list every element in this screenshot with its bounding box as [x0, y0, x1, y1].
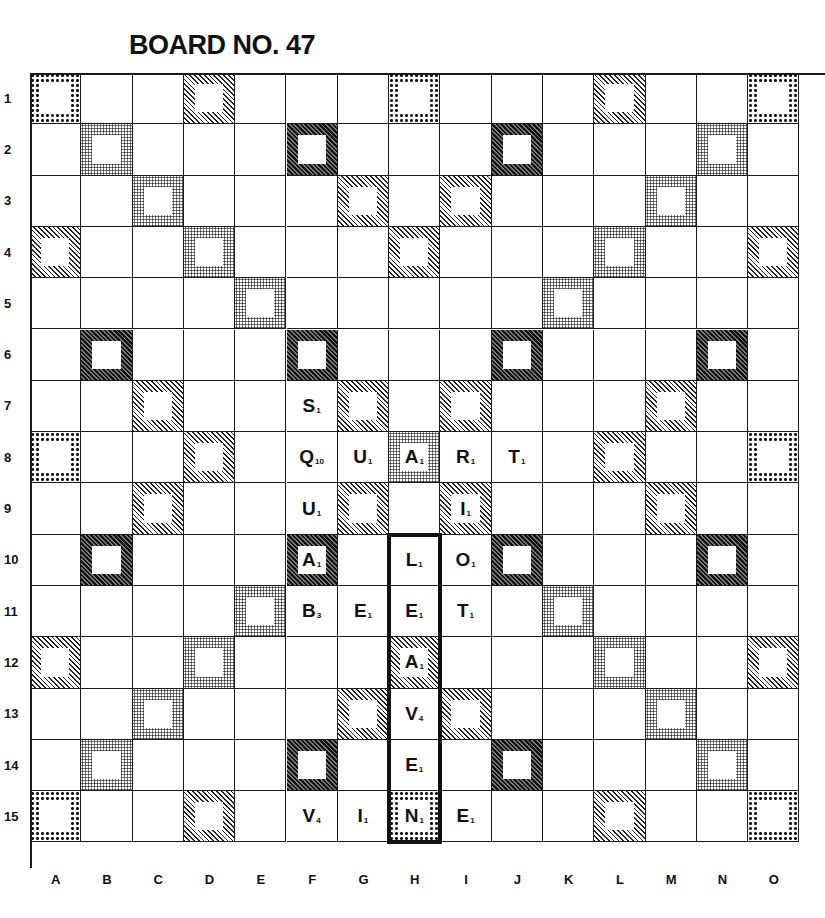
- board-cell-M2[interactable]: [646, 124, 697, 175]
- board-cell-H14[interactable]: E1: [389, 740, 440, 791]
- board-cell-D9[interactable]: [184, 483, 235, 534]
- board-cell-F1[interactable]: [287, 73, 338, 124]
- board-cell-K4[interactable]: [543, 227, 594, 278]
- board-cell-L11[interactable]: [594, 586, 645, 637]
- board-cell-B15[interactable]: [81, 791, 132, 842]
- board-cell-M13[interactable]: [646, 689, 697, 740]
- board-cell-C13[interactable]: [133, 689, 184, 740]
- board-cell-K6[interactable]: [543, 330, 594, 381]
- board-cell-E11[interactable]: [235, 586, 286, 637]
- board-cell-F8[interactable]: Q10: [287, 432, 338, 483]
- board-cell-N11[interactable]: [697, 586, 748, 637]
- board-cell-J12[interactable]: [492, 637, 543, 688]
- board-cell-N12[interactable]: [697, 637, 748, 688]
- board-cell-O3[interactable]: [748, 176, 799, 227]
- board-cell-D12[interactable]: [184, 637, 235, 688]
- board-cell-N9[interactable]: [697, 483, 748, 534]
- board-cell-J3[interactable]: [492, 176, 543, 227]
- board-cell-F7[interactable]: S1: [287, 381, 338, 432]
- board-cell-D6[interactable]: [184, 330, 235, 381]
- board-cell-J1[interactable]: [492, 73, 543, 124]
- board-cell-L5[interactable]: [594, 278, 645, 329]
- board-cell-H11[interactable]: E1: [389, 586, 440, 637]
- board-cell-K8[interactable]: [543, 432, 594, 483]
- board-cell-O15[interactable]: [748, 791, 799, 842]
- board-cell-L7[interactable]: [594, 381, 645, 432]
- board-cell-M1[interactable]: [646, 73, 697, 124]
- board-cell-A7[interactable]: [30, 381, 81, 432]
- board-cell-H5[interactable]: [389, 278, 440, 329]
- board-cell-I6[interactable]: [440, 330, 491, 381]
- board-cell-G1[interactable]: [338, 73, 389, 124]
- board-cell-J13[interactable]: [492, 689, 543, 740]
- board-cell-C5[interactable]: [133, 278, 184, 329]
- board-cell-B5[interactable]: [81, 278, 132, 329]
- board-cell-J10[interactable]: [492, 535, 543, 586]
- board-cell-B12[interactable]: [81, 637, 132, 688]
- board-cell-E15[interactable]: [235, 791, 286, 842]
- board-cell-G12[interactable]: [338, 637, 389, 688]
- board-cell-K7[interactable]: [543, 381, 594, 432]
- board-cell-I1[interactable]: [440, 73, 491, 124]
- board-cell-J7[interactable]: [492, 381, 543, 432]
- board-cell-E2[interactable]: [235, 124, 286, 175]
- board-cell-C12[interactable]: [133, 637, 184, 688]
- board-cell-I13[interactable]: [440, 689, 491, 740]
- board-cell-C2[interactable]: [133, 124, 184, 175]
- board-cell-F4[interactable]: [287, 227, 338, 278]
- board-cell-E14[interactable]: [235, 740, 286, 791]
- board-cell-I9[interactable]: I1: [440, 483, 491, 534]
- board-cell-J9[interactable]: [492, 483, 543, 534]
- board-cell-O8[interactable]: [748, 432, 799, 483]
- board-cell-K11[interactable]: [543, 586, 594, 637]
- board-cell-B1[interactable]: [81, 73, 132, 124]
- board-cell-C9[interactable]: [133, 483, 184, 534]
- board-cell-B6[interactable]: [81, 330, 132, 381]
- board-cell-G13[interactable]: [338, 689, 389, 740]
- board-cell-E10[interactable]: [235, 535, 286, 586]
- board-cell-L6[interactable]: [594, 330, 645, 381]
- board-cell-H7[interactable]: [389, 381, 440, 432]
- board-cell-N4[interactable]: [697, 227, 748, 278]
- board-cell-C4[interactable]: [133, 227, 184, 278]
- board-cell-L2[interactable]: [594, 124, 645, 175]
- board-cell-B9[interactable]: [81, 483, 132, 534]
- board-cell-K5[interactable]: [543, 278, 594, 329]
- board-cell-L8[interactable]: [594, 432, 645, 483]
- board-cell-E4[interactable]: [235, 227, 286, 278]
- board-cell-B7[interactable]: [81, 381, 132, 432]
- board-cell-C14[interactable]: [133, 740, 184, 791]
- board-cell-D5[interactable]: [184, 278, 235, 329]
- board-cell-A2[interactable]: [30, 124, 81, 175]
- board-cell-M3[interactable]: [646, 176, 697, 227]
- board-cell-B4[interactable]: [81, 227, 132, 278]
- board-cell-H12[interactable]: A1: [389, 637, 440, 688]
- board-cell-K2[interactable]: [543, 124, 594, 175]
- board-cell-I2[interactable]: [440, 124, 491, 175]
- board-cell-C11[interactable]: [133, 586, 184, 637]
- board-cell-B8[interactable]: [81, 432, 132, 483]
- board-cell-K10[interactable]: [543, 535, 594, 586]
- board-cell-M12[interactable]: [646, 637, 697, 688]
- board-cell-L15[interactable]: [594, 791, 645, 842]
- board-cell-B14[interactable]: [81, 740, 132, 791]
- board-cell-L4[interactable]: [594, 227, 645, 278]
- board-cell-D13[interactable]: [184, 689, 235, 740]
- board-cell-L14[interactable]: [594, 740, 645, 791]
- board-cell-N15[interactable]: [697, 791, 748, 842]
- board-cell-H8[interactable]: A1: [389, 432, 440, 483]
- board-cell-E9[interactable]: [235, 483, 286, 534]
- board-cell-H2[interactable]: [389, 124, 440, 175]
- board-cell-G11[interactable]: E1: [338, 586, 389, 637]
- board-cell-G7[interactable]: [338, 381, 389, 432]
- board-cell-A3[interactable]: [30, 176, 81, 227]
- board-cell-F2[interactable]: [287, 124, 338, 175]
- board-cell-O10[interactable]: [748, 535, 799, 586]
- board-cell-F6[interactable]: [287, 330, 338, 381]
- board-cell-O6[interactable]: [748, 330, 799, 381]
- board-cell-O9[interactable]: [748, 483, 799, 534]
- board-cell-M5[interactable]: [646, 278, 697, 329]
- board-cell-I15[interactable]: E1: [440, 791, 491, 842]
- board-cell-G9[interactable]: [338, 483, 389, 534]
- board-cell-H13[interactable]: V4: [389, 689, 440, 740]
